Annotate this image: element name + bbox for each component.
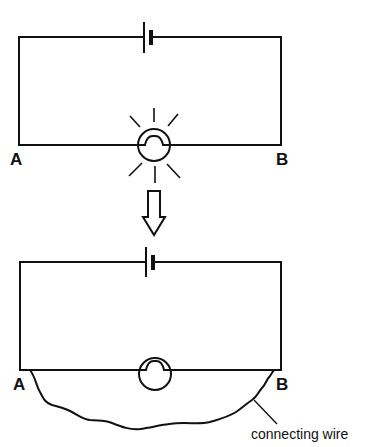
connecting-wire-leader-line	[254, 400, 277, 424]
top-circuit	[19, 22, 281, 183]
battery-icon	[144, 22, 153, 53]
connecting-wire	[30, 370, 274, 429]
bottom-node-b-label: B	[276, 375, 288, 395]
bottom-circuit	[20, 247, 281, 429]
bottom-circuit-wire	[20, 262, 281, 370]
down-arrow-icon	[143, 191, 165, 235]
unlit-bulb-icon	[139, 358, 171, 390]
connecting-wire-caption: connecting wire	[251, 426, 348, 442]
bottom-node-a-label: A	[13, 375, 25, 395]
battery-icon	[146, 247, 155, 277]
top-node-b-label: B	[276, 150, 288, 170]
circuit-diagram	[0, 0, 391, 447]
top-node-a-label: A	[10, 150, 22, 170]
